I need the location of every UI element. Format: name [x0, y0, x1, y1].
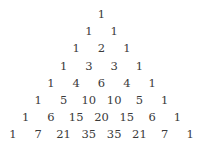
triangle-cell: 5 — [52, 93, 76, 107]
triangle-cell: 1 — [153, 93, 177, 107]
triangle-cell: 6 — [90, 76, 114, 90]
triangle-cell: 6 — [140, 110, 164, 124]
triangle-cell: 15 — [64, 110, 88, 124]
triangle-cell: 1 — [127, 59, 151, 73]
triangle-cell: 1 — [140, 76, 164, 90]
triangle-cell: 1 — [39, 76, 63, 90]
triangle-cell: 7 — [26, 127, 50, 141]
triangle-cell: 4 — [115, 76, 139, 90]
triangle-cell: 35 — [102, 127, 126, 141]
triangle-cell: 1 — [102, 24, 126, 38]
triangle-cell: 1 — [14, 110, 38, 124]
triangle-cell: 1 — [1, 127, 25, 141]
triangle-cell: 10 — [77, 93, 101, 107]
triangle-cell: 3 — [102, 59, 126, 73]
triangle-cell: 35 — [77, 127, 101, 141]
triangle-cell: 21 — [127, 127, 151, 141]
triangle-cell: 5 — [127, 93, 151, 107]
triangle-cell: 20 — [90, 110, 114, 124]
triangle-cell: 15 — [115, 110, 139, 124]
triangle-cell: 1 — [77, 24, 101, 38]
triangle-cell: 1 — [52, 59, 76, 73]
triangle-cell: 6 — [39, 110, 63, 124]
triangle-cell: 10 — [102, 93, 126, 107]
triangle-cell: 3 — [77, 59, 101, 73]
triangle-cell: 1 — [64, 41, 88, 55]
triangle-cell: 21 — [52, 127, 76, 141]
triangle-cell: 1 — [115, 41, 139, 55]
triangle-cell: 1 — [165, 110, 189, 124]
triangle-cell: 7 — [153, 127, 177, 141]
triangle-cell: 1 — [178, 127, 202, 141]
pascal-triangle: 1111211331146411510105116152015611721353… — [0, 0, 203, 148]
triangle-cell: 2 — [90, 41, 114, 55]
triangle-cell: 1 — [26, 93, 50, 107]
triangle-cell: 1 — [90, 7, 114, 21]
triangle-cell: 4 — [64, 76, 88, 90]
